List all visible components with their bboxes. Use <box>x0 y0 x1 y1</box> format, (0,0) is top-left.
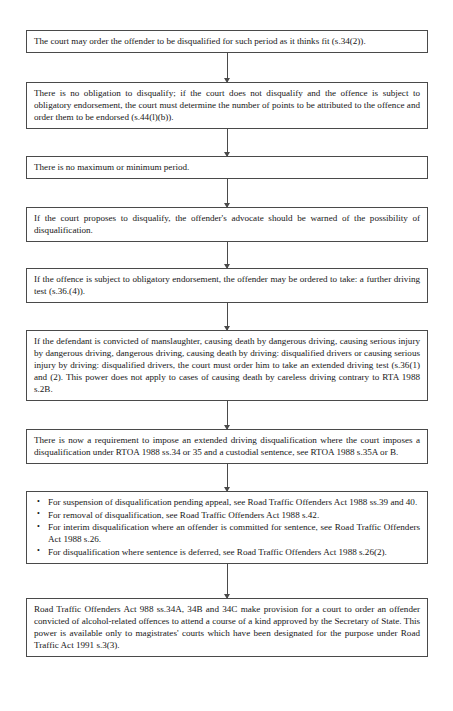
connector-3-to-4 <box>26 179 428 207</box>
connector-2-to-3 <box>26 129 428 156</box>
list-item-text: For disqualification where sentence is d… <box>48 547 387 557</box>
connector-line <box>227 129 228 156</box>
connector-line <box>227 401 228 429</box>
flow-node-7-text: There is now a requirement to impose an … <box>34 434 420 458</box>
list-item-text: For interim disqualification where an of… <box>48 522 420 544</box>
flow-node-7: There is now a requirement to impose an … <box>26 429 428 464</box>
connector-line <box>227 564 228 598</box>
connector-line <box>227 464 228 491</box>
flowchart-diagram: The court may order the offender to be d… <box>0 0 453 711</box>
flow-node-1: The court may order the offender to be d… <box>26 30 428 53</box>
flow-node-5-text: If the offence is subject to obligatory … <box>34 273 420 297</box>
flow-node-2: There is no obligation to disqualify; if… <box>26 82 428 129</box>
connector-line <box>227 53 228 82</box>
flow-node-2-text: There is no obligation to disqualify; if… <box>34 87 420 123</box>
list-item-text: For removal of disqualification, see Roa… <box>48 510 319 520</box>
flow-node-4-text: If the court proposes to disqualify, the… <box>34 212 420 236</box>
arrow-down-icon <box>224 326 230 331</box>
bullet-icon: • <box>37 508 40 520</box>
arrow-down-icon <box>224 152 230 157</box>
connector-line <box>227 303 228 330</box>
connector-line <box>227 242 228 268</box>
list-item: • For suspension of disqualification pen… <box>34 496 420 508</box>
arrow-down-icon <box>224 264 230 269</box>
connector-4-to-5 <box>26 242 428 268</box>
connector-6-to-7 <box>26 401 428 429</box>
connector-8-to-9 <box>26 564 428 598</box>
flow-node-8-list: • For suspension of disqualification pen… <box>34 496 420 558</box>
list-item: • For removal of disqualification, see R… <box>34 509 420 521</box>
flow-node-6-text: If the defendant is convicted of manslau… <box>34 335 420 395</box>
flow-node-5: If the offence is subject to obligatory … <box>26 268 428 303</box>
bullet-icon: • <box>37 545 40 557</box>
connector-5-to-6 <box>26 303 428 330</box>
flow-node-6: If the defendant is convicted of manslau… <box>26 330 428 401</box>
connector-1-to-2 <box>26 53 428 82</box>
connector-line <box>227 179 228 207</box>
arrow-down-icon <box>224 594 230 599</box>
list-item: • For interim disqualification where an … <box>34 521 420 545</box>
arrow-down-icon <box>224 425 230 430</box>
connector-7-to-8 <box>26 464 428 491</box>
list-item-text: For suspension of disqualification pendi… <box>48 497 417 507</box>
bullet-icon: • <box>37 496 40 508</box>
flow-node-4: If the court proposes to disqualify, the… <box>26 207 428 242</box>
list-item: • For disqualification where sentence is… <box>34 546 420 558</box>
flowchart-column: The court may order the offender to be d… <box>26 30 428 657</box>
arrow-down-icon <box>224 78 230 83</box>
bullet-icon: • <box>37 521 40 533</box>
flow-node-3: There is no maximum or minimum period. <box>26 156 428 179</box>
arrow-down-icon <box>224 203 230 208</box>
flow-node-3-text: There is no maximum or minimum period. <box>34 161 420 173</box>
flow-node-8: • For suspension of disqualification pen… <box>26 491 428 564</box>
flow-node-9-text: Road Traffic Offenders Act 988 ss.34A, 3… <box>34 603 420 651</box>
flow-node-9: Road Traffic Offenders Act 988 ss.34A, 3… <box>26 598 428 657</box>
flow-node-1-text: The court may order the offender to be d… <box>34 35 420 47</box>
arrow-down-icon <box>224 487 230 492</box>
